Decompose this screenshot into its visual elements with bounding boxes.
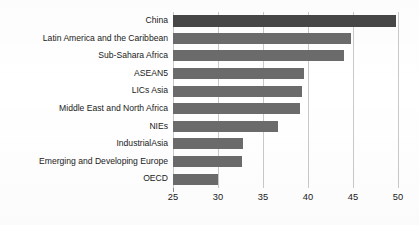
category-label: Middle East and North Africa	[59, 100, 168, 118]
x-tick-label-35: 35	[258, 192, 268, 202]
bars-group	[173, 12, 398, 188]
category-label: Sub-Sahara Africa	[98, 47, 168, 65]
category-label: OECD	[143, 170, 168, 188]
bar-middle-east-and-north-africa	[173, 103, 300, 114]
category-label: China	[146, 12, 168, 30]
bar-oecd	[173, 174, 218, 185]
plot-area	[173, 12, 398, 188]
bar-latin-america-and-the-caribbean	[173, 33, 351, 44]
bar-row	[173, 170, 398, 188]
bar-row	[173, 65, 398, 83]
bar-sub-sahara-africa	[173, 50, 344, 61]
category-label: LICs Asia	[132, 82, 168, 100]
bar-row	[173, 153, 398, 171]
bar-row	[173, 118, 398, 136]
bar-emerging-and-developing-europe	[173, 156, 242, 167]
category-label: Emerging and Developing Europe	[39, 153, 168, 171]
x-tick-label-50: 50	[393, 192, 403, 202]
x-tick-label-45: 45	[348, 192, 358, 202]
bar-row	[173, 82, 398, 100]
bar-row	[173, 135, 398, 153]
bar-row	[173, 12, 398, 30]
x-axis-tick-labels: 253035404550	[0, 192, 419, 212]
category-label: IndustrialAsia	[116, 135, 168, 153]
bar-industrialasia	[173, 138, 243, 149]
category-label: Latin America and the Caribbean	[43, 30, 168, 48]
bar-chart: ChinaLatin America and the CaribbeanSub-…	[0, 0, 419, 225]
x-tick-label-25: 25	[168, 192, 178, 202]
category-axis-labels: ChinaLatin America and the CaribbeanSub-…	[0, 12, 168, 188]
category-label: ASEAN5	[134, 65, 168, 83]
bar-row	[173, 30, 398, 48]
bar-row	[173, 47, 398, 65]
gridline-50	[398, 12, 399, 188]
x-tick-label-30: 30	[213, 192, 223, 202]
bar-row	[173, 100, 398, 118]
bar-nies	[173, 121, 278, 132]
bar-asean5	[173, 68, 304, 79]
category-label: NIEs	[149, 118, 168, 136]
bar-china	[173, 15, 396, 27]
x-tick-label-40: 40	[303, 192, 313, 202]
bar-lics-asia	[173, 86, 302, 97]
